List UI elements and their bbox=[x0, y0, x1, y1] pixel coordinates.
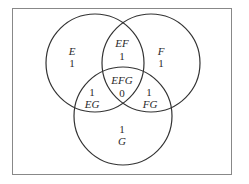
region-fg-value: 1 bbox=[146, 86, 152, 98]
region-f-label: F bbox=[157, 45, 165, 57]
region-g-value: 1 bbox=[119, 123, 125, 135]
region-f-value: 1 bbox=[158, 57, 164, 69]
region-eg-label: EG bbox=[84, 98, 100, 110]
region-e-value: 1 bbox=[69, 57, 75, 69]
region-ef-label: EF bbox=[114, 37, 129, 49]
region-eg-value: 1 bbox=[89, 86, 95, 98]
region-g-label: G bbox=[118, 135, 126, 147]
region-fg-label: FG bbox=[142, 98, 158, 110]
venn-diagram: E 1 F 1 1 G EF 1 1 EG 1 FG EFG 0 bbox=[0, 0, 249, 184]
region-efg-label: EFG bbox=[110, 74, 132, 86]
region-e-label: E bbox=[68, 45, 76, 57]
region-ef-value: 1 bbox=[119, 50, 125, 62]
region-efg-value: 0 bbox=[119, 87, 125, 99]
